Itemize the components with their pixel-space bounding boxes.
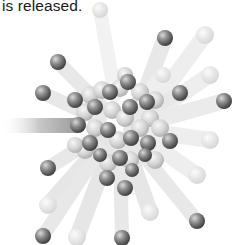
incoming-neutron-trail <box>0 118 78 133</box>
nucleus-explosion-illustration <box>0 0 234 245</box>
incoming-neutron <box>70 117 86 133</box>
